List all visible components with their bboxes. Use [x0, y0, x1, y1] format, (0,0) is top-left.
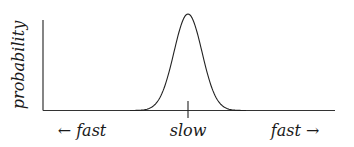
bell-curve [130, 14, 246, 110]
label-right-fast: fast → [270, 121, 320, 140]
probability-diagram: probability ← fast slow fast → [0, 0, 354, 147]
y-axis-label: probability [9, 20, 28, 109]
label-left-fast: ← fast [58, 121, 107, 140]
label-center-slow: slow [170, 121, 207, 140]
